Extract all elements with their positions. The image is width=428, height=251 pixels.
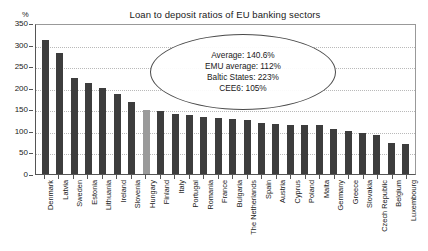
x-axis-label-slot: Sweden xyxy=(66,180,81,251)
bar xyxy=(229,119,236,174)
bar xyxy=(388,143,395,174)
x-axis-tick-mark xyxy=(66,175,81,179)
x-axis-label-slot: Latvia xyxy=(52,180,67,251)
x-axis-tick-mark xyxy=(153,175,168,179)
bar xyxy=(301,125,308,174)
bar xyxy=(258,123,265,174)
y-axis-tick-mark xyxy=(29,153,33,154)
annotation-line: CEE6: 105% xyxy=(219,83,267,94)
x-axis-label-slot: Poland xyxy=(298,180,313,251)
chart-container: Loan to deposit ratios of EU banking sec… xyxy=(0,0,428,251)
x-axis-tick-mark xyxy=(197,175,212,179)
x-axis-tick-mark xyxy=(95,175,110,179)
x-axis-tick-mark xyxy=(255,175,270,179)
annotation-line: EMU average: 112% xyxy=(205,61,281,72)
x-axis-tick-mark xyxy=(400,175,415,179)
y-axis-tick-mark xyxy=(29,132,33,133)
x-axis-tick-mark xyxy=(342,175,357,179)
x-axis-tick-mark xyxy=(124,175,139,179)
y-axis-tick-labels: 050100150200250300350 xyxy=(0,24,33,175)
x-axis-label-slot: Malta xyxy=(313,180,328,251)
bar-slot xyxy=(110,25,124,174)
bar xyxy=(330,129,337,174)
x-axis-tick-mark xyxy=(37,175,52,179)
y-axis-unit-label: % xyxy=(22,10,29,19)
bar-slot xyxy=(81,25,95,174)
x-axis-label-slot: Lithuania xyxy=(95,180,110,251)
x-axis-tick-mark xyxy=(211,175,226,179)
bar-slot xyxy=(96,25,110,174)
chart-title: Loan to deposit ratios of EU banking sec… xyxy=(60,9,390,20)
annotation-line: Baltic States: 223% xyxy=(207,72,279,83)
y-axis-tick-mark xyxy=(29,67,33,68)
y-axis-tick-label: 50 xyxy=(19,149,28,157)
x-axis-label-slot: Luxembourg xyxy=(400,180,415,251)
x-axis-label-slot: Spain xyxy=(255,180,270,251)
annotation-line: Average: 140.6% xyxy=(211,50,275,61)
x-axis-tick-mark xyxy=(52,175,67,179)
bar xyxy=(215,118,222,174)
bar-slot xyxy=(38,25,52,174)
x-axis-tick-mark xyxy=(356,175,371,179)
x-axis-label-slot: Germany xyxy=(327,180,342,251)
x-axis-label-slot: Bulgaria xyxy=(226,180,241,251)
x-axis-label-slot: France xyxy=(211,180,226,251)
x-axis-label-slot: Slovakia xyxy=(356,180,371,251)
bar xyxy=(186,115,193,174)
bar-slot xyxy=(326,25,340,174)
bar xyxy=(272,124,279,174)
x-axis-label-slot: Estonia xyxy=(81,180,96,251)
x-axis-tick-mark xyxy=(298,175,313,179)
y-axis-tick-label: 100 xyxy=(15,128,28,136)
x-axis-label-slot: Hungary xyxy=(139,180,154,251)
x-axis-tick-mark xyxy=(284,175,299,179)
x-axis-label-slot: Cyprus xyxy=(284,180,299,251)
y-axis-tick-mark xyxy=(29,46,33,47)
y-axis-tick-label: 200 xyxy=(15,85,28,93)
bar xyxy=(114,94,121,174)
x-axis-tick-mark xyxy=(385,175,400,179)
x-axis-tick-mark xyxy=(110,175,125,179)
x-axis-tick-mark xyxy=(240,175,255,179)
bar xyxy=(56,53,63,174)
y-axis-tick-mark xyxy=(29,175,33,176)
x-axis-tick-mark xyxy=(313,175,328,179)
y-axis-tick-mark xyxy=(29,89,33,90)
x-axis-category-label: Luxembourg xyxy=(410,180,417,221)
x-axis-label-slot: Denmark xyxy=(37,180,52,251)
bar xyxy=(244,120,251,174)
bar xyxy=(200,117,207,174)
bar xyxy=(345,131,352,174)
y-axis-tick-label: 350 xyxy=(15,20,28,28)
bar xyxy=(287,125,294,174)
bar xyxy=(143,110,150,174)
bar-slot xyxy=(355,25,369,174)
x-axis-tick-mark xyxy=(182,175,197,179)
bar-slot xyxy=(384,25,398,174)
y-axis-tick-label: 0 xyxy=(24,171,28,179)
bar xyxy=(85,83,92,174)
statistics-annotation-ellipse: Average: 140.6%EMU average: 112%Baltic S… xyxy=(150,34,336,110)
x-axis-category-labels: DenmarkLatviaSwedenEstoniaLithuaniaIrela… xyxy=(35,180,416,251)
bar-slot xyxy=(67,25,81,174)
bar-slot xyxy=(399,25,413,174)
bar xyxy=(42,40,49,174)
x-axis-tick-mark xyxy=(168,175,183,179)
bar-slot xyxy=(125,25,139,174)
x-axis-tick-mark xyxy=(327,175,342,179)
x-axis-ticks xyxy=(35,175,416,179)
bar xyxy=(172,114,179,174)
x-axis-label-slot: Czech Republic xyxy=(371,180,386,251)
y-axis-tick-label: 300 xyxy=(15,42,28,50)
y-axis-tick-mark xyxy=(29,24,33,25)
x-axis-label-slot: Slovenia xyxy=(124,180,139,251)
bar xyxy=(402,144,409,174)
bar xyxy=(359,133,366,174)
bar-slot xyxy=(139,25,153,174)
x-axis-tick-mark xyxy=(226,175,241,179)
x-axis-label-slot: Italy xyxy=(168,180,183,251)
bar xyxy=(373,135,380,174)
bar xyxy=(99,88,106,174)
x-axis-tick-mark xyxy=(371,175,386,179)
x-axis-label-slot: Belgium xyxy=(385,180,400,251)
